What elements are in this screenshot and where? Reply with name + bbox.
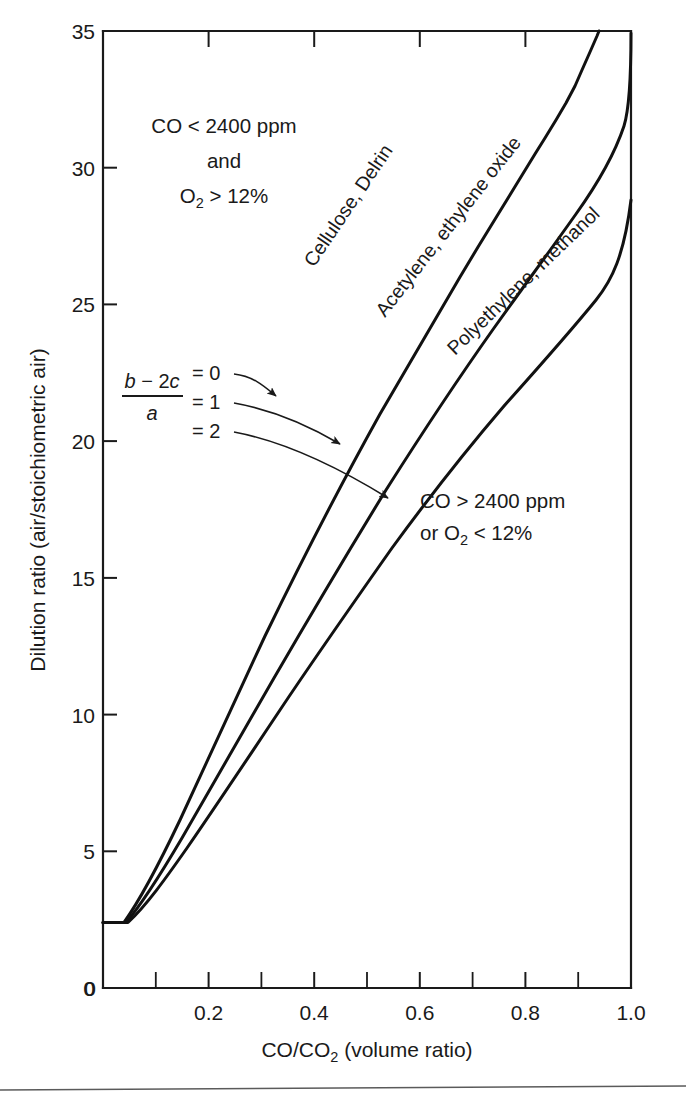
y-ticklabel-5: 5: [83, 840, 95, 863]
x-ticklabel-0p8: 0.8: [511, 1001, 540, 1024]
curve-label-cellulose-delrin: Cellulose, Delrin: [299, 140, 397, 270]
annotation-upper-line3-post: > 12%: [204, 184, 268, 207]
dilution-ratio-chart: 35 30 25 20 15 10 5 0: [0, 0, 686, 1099]
annotation-lower-line2: or O2 < 12%: [420, 521, 532, 548]
x-ticklabel-0p4: 0.4: [300, 1001, 330, 1024]
fraction-numerator-mid: − 2: [136, 370, 170, 392]
x-axis-title: CO/CO2 (volume ratio): [261, 1038, 472, 1065]
leader-arrow-0: [234, 374, 276, 396]
curve-label-polyethylene-methanol: Polyethylene, methanol: [442, 202, 603, 359]
annotation-upper-line3-subscript: 2: [196, 195, 204, 211]
x-ticklabel-0p2: 0.2: [194, 1001, 223, 1024]
annotation-lower-line1: CO > 2400 ppm: [420, 489, 565, 512]
y-axis-tick-labels: 35 30 25 20 15 10 5 0: [72, 20, 95, 1000]
parameter-value-2: = 2: [192, 420, 220, 442]
figure-container: 35 30 25 20 15 10 5 0: [0, 0, 686, 1099]
annotation-upper-line3-pre: O: [180, 184, 196, 207]
y-ticklabel-30: 30: [72, 157, 95, 180]
leader-arrow-1: [234, 403, 340, 444]
annotation-lower-line2-post: < 12%: [468, 521, 532, 544]
y-ticklabel-20: 20: [72, 430, 95, 453]
annotation-lower-right-region: CO > 2400 ppm or O2 < 12%: [420, 489, 565, 548]
y-axis-title: Dilution ratio (air/stoichiometric air): [26, 348, 49, 671]
y-ticklabel-35: 35: [72, 20, 95, 43]
x-axis-title-subscript: 2: [330, 1049, 338, 1065]
annotation-lower-line2-subscript: 2: [460, 532, 468, 548]
x-axis-title-pre: CO/CO: [261, 1038, 330, 1061]
footer-divider: [0, 1086, 686, 1090]
x-axis-ticks-top: [209, 31, 526, 47]
x-ticklabel-1p0: 1.0: [616, 1001, 645, 1024]
x-axis-ticks-bottom: [156, 972, 578, 988]
fraction-numerator-b: b: [124, 370, 135, 392]
annotation-upper-line1: CO < 2400 ppm: [151, 114, 296, 137]
annotation-upper-line2: and: [207, 149, 241, 172]
annotation-lower-line2-pre: or O: [420, 521, 460, 544]
parameter-value-1: = 1: [192, 391, 220, 413]
y-ticklabel-25: 25: [72, 293, 95, 316]
x-ticklabel-0: 0: [84, 977, 96, 1000]
y-ticklabel-15: 15: [72, 567, 95, 590]
annotation-parameter-fraction: b − 2c a = 0 = 1 = 2: [122, 362, 388, 498]
y-ticklabel-10: 10: [72, 704, 95, 727]
y-axis-ticks: [103, 31, 117, 988]
annotation-upper-line3: O2 > 12%: [180, 184, 268, 211]
parameter-value-0: = 0: [192, 362, 220, 384]
fraction-denominator: a: [146, 402, 157, 424]
annotation-upper-left-region: CO < 2400 ppm and O2 > 12%: [151, 114, 296, 211]
fraction-numerator-c: c: [170, 370, 180, 392]
fraction-numerator: b − 2c: [124, 370, 179, 392]
x-axis-tick-labels: 0 0.2 0.4 0.6 0.8 1.0: [84, 977, 645, 1024]
x-ticklabel-0p6: 0.6: [405, 1001, 434, 1024]
x-axis-title-post: (volume ratio): [338, 1038, 472, 1061]
